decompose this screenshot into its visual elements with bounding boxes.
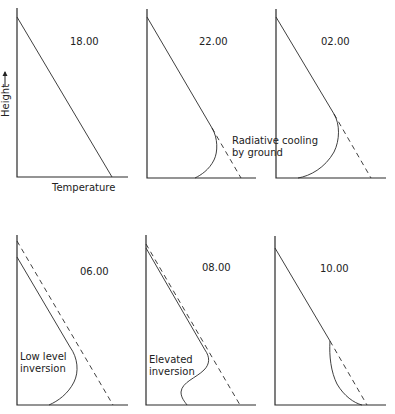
panel-1800: 18.00 Temperature Height (0, 8, 128, 193)
x-axis-label: Temperature (51, 182, 115, 193)
panel-axes (17, 235, 128, 405)
temperature-profile-line (146, 248, 209, 405)
panel-axes (17, 8, 128, 177)
panel-axes (276, 9, 386, 178)
panel-0800: 08.00 Elevated inversion (146, 235, 256, 405)
panel-0200: 02.00 (276, 9, 386, 178)
original-profile-dashed (330, 341, 367, 405)
panel-0600: 06.00 Low level inversion (17, 235, 128, 405)
panel-axes (146, 235, 256, 405)
annotation-line-1: Elevated (149, 354, 193, 365)
annotation-line-2: by ground (232, 147, 283, 158)
panel-1000: 10.00 (275, 236, 386, 405)
temperature-profile-line (275, 248, 362, 405)
panel-2200: 22.00 Radiative cooling by ground (147, 9, 318, 178)
panel-axes (275, 236, 386, 405)
time-label: 10.00 (320, 263, 349, 274)
annotation-line-2: inversion (20, 363, 66, 374)
original-profile-dashed (334, 114, 371, 178)
y-axis-label: Height (0, 84, 11, 117)
up-arrow-icon (3, 71, 8, 86)
annotation-line-1: Low level (20, 351, 67, 362)
temperature-profile-diagram: 18.00 Temperature Height 22.00 Radiative… (0, 0, 395, 414)
annotation-line-1: Radiative cooling (232, 135, 318, 146)
temperature-profile-line (17, 257, 77, 405)
time-label: 22.00 (199, 36, 228, 47)
time-label: 06.00 (80, 266, 109, 277)
time-label: 08.00 (202, 262, 231, 273)
annotation-line-2: inversion (149, 366, 195, 377)
time-label: 02.00 (321, 36, 350, 47)
time-label: 18.00 (70, 36, 99, 47)
